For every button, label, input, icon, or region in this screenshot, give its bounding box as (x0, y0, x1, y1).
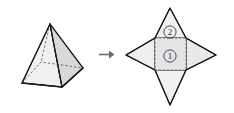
face-label-2-text: 2 (168, 27, 173, 37)
square-pyramid-solid (22, 24, 83, 87)
net-face-bottom (155, 70, 186, 105)
net-face-right (186, 38, 216, 70)
pyramid-net-star: 1 2 (126, 8, 216, 105)
right-arrow-icon (99, 51, 115, 59)
face-label-1-text: 1 (168, 51, 173, 61)
net-face-left (126, 38, 155, 70)
arrow-head (109, 51, 115, 59)
pyramid-net-diagram: 1 2 (0, 0, 234, 113)
diagram-canvas: 1 2 (0, 0, 234, 113)
